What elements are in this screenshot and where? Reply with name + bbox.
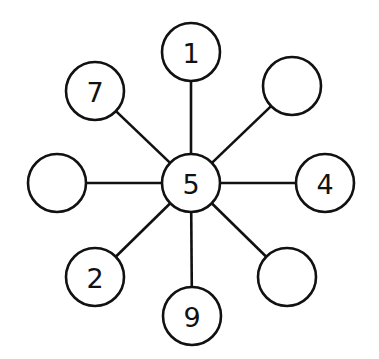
node-top: 1 — [162, 23, 220, 81]
node-bottom-left: 2 — [66, 248, 124, 306]
node-label: 5 — [182, 169, 199, 200]
node-label: 9 — [183, 302, 200, 333]
nodes: 174295 — [28, 23, 354, 345]
node-circle — [28, 154, 86, 212]
node-label: 7 — [86, 77, 103, 108]
edge-center-to-top-left — [116, 111, 170, 163]
node-right: 4 — [296, 154, 354, 212]
node-center: 5 — [162, 154, 220, 212]
node-label: 2 — [86, 263, 103, 294]
node-circle — [263, 57, 321, 115]
node-bottom-right — [258, 248, 316, 306]
node-top-right — [263, 57, 321, 115]
node-circle — [258, 248, 316, 306]
star-diagram: 174295 — [0, 0, 379, 359]
edge-center-to-bottom — [191, 212, 192, 287]
edge-center-to-top-right — [212, 106, 271, 163]
node-left — [28, 154, 86, 212]
edge-center-to-bottom-left — [116, 203, 171, 256]
node-top-left: 7 — [66, 62, 124, 120]
node-label: 4 — [316, 169, 333, 200]
node-bottom: 9 — [163, 287, 221, 345]
node-label: 1 — [182, 38, 199, 69]
edge-center-to-bottom-right — [212, 203, 267, 256]
